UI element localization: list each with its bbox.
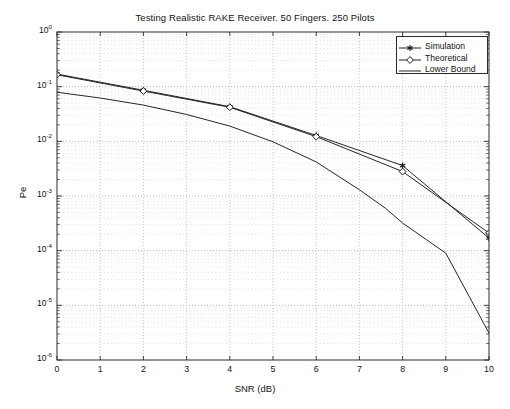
- legend-label: Theoretical: [423, 53, 468, 63]
- legend-item-lower-bound[interactable]: Lower Bound: [397, 63, 489, 75]
- x-axis-label: SNR (dB): [0, 383, 510, 394]
- legend-label: Lower Bound: [423, 64, 476, 74]
- legend-item-simulation[interactable]: Simulation: [397, 40, 489, 52]
- legend-label: Simulation: [423, 41, 465, 51]
- legend-marker-star-icon: [397, 40, 423, 52]
- figure-container: Testing Realistic RAKE Receiver. 50 Fing…: [0, 0, 510, 409]
- marker-diamond: [407, 56, 414, 63]
- legend-marker-diamond-icon: [397, 52, 423, 64]
- legend[interactable]: SimulationTheoreticalLower Bound: [396, 36, 488, 74]
- legend-item-theoretical[interactable]: Theoretical: [397, 52, 489, 64]
- legend-marker-line-icon: [397, 63, 423, 75]
